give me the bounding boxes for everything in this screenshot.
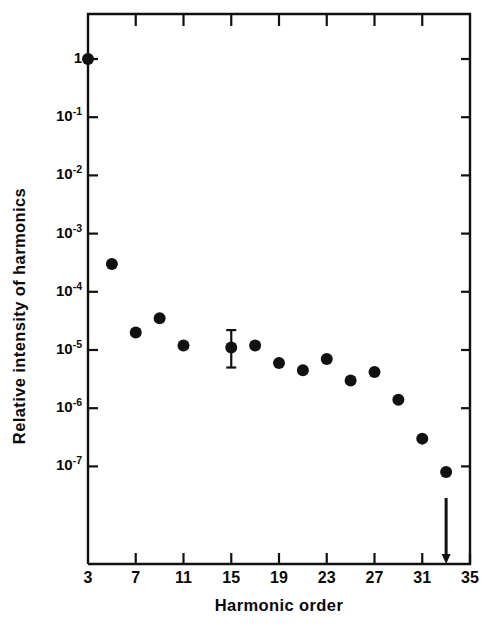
data-point-marker: [178, 339, 190, 351]
data-point-marker: [273, 357, 285, 369]
data-point-marker: [249, 339, 261, 351]
data-point-marker: [369, 366, 381, 378]
data-point-marker: [154, 312, 166, 324]
data-point-marker: [225, 342, 237, 354]
data-point-marker: [392, 394, 404, 406]
data-point-marker: [106, 258, 118, 270]
plot-area: [0, 0, 485, 632]
upper-limit-arrow-head: [442, 554, 451, 564]
data-point-marker: [297, 364, 309, 376]
data-point-marker: [440, 466, 452, 478]
harmonic-spectrum-figure: Relative intensity of harmonics Harmonic…: [0, 0, 485, 632]
data-point-marker: [321, 353, 333, 365]
data-point-marker: [130, 326, 142, 338]
data-point-marker: [82, 53, 94, 65]
plot-frame: [88, 14, 470, 564]
data-point-marker: [345, 374, 357, 386]
data-point-marker: [416, 433, 428, 445]
